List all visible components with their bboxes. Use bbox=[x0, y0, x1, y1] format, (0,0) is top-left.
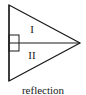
region-label-lower: II bbox=[28, 49, 36, 61]
triangle-diagram: I II bbox=[0, 0, 86, 95]
reflection-figure: I II reflection bbox=[0, 0, 86, 95]
region-label-upper: I bbox=[30, 23, 34, 35]
figure-caption: reflection bbox=[0, 84, 86, 95]
